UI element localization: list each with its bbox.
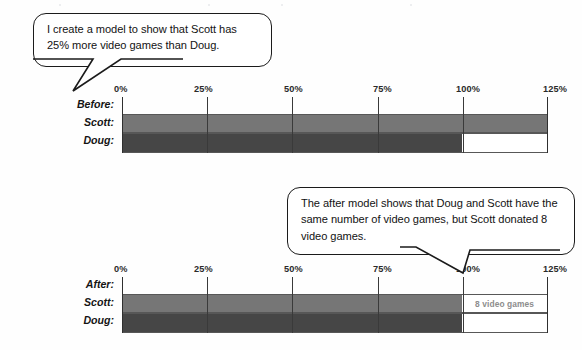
axis-tick-25: 25%	[194, 264, 213, 274]
gridline-100	[463, 277, 464, 333]
gridline-125	[547, 97, 548, 153]
chart-after-title: After:	[86, 278, 114, 290]
gridline-50	[292, 277, 293, 333]
gridline-125	[547, 277, 548, 333]
axis-tick-50: 50%	[284, 264, 303, 274]
chart-before-track-doug	[122, 133, 548, 153]
chart-after-track-doug	[122, 313, 548, 333]
axis-tick-0: 0%	[114, 264, 127, 274]
gridline-50	[292, 97, 293, 153]
chart-before-row-labels: Before: Scott: Doug:	[0, 97, 118, 153]
chart-after-track-scott: 8 video games	[122, 294, 548, 313]
worksheet-page: I create a model to show that Scott has …	[0, 0, 582, 350]
chart-before-label-doug: Doug:	[83, 134, 114, 146]
chart-after-plot: 8 video games	[122, 277, 548, 333]
chart-before-title: Before:	[77, 98, 114, 110]
chart-after-note-donated: 8 video games	[462, 295, 547, 312]
axis-tick-50: 50%	[284, 84, 303, 94]
chart-before-plot	[122, 97, 548, 153]
chart-after-label-doug: Doug:	[83, 314, 114, 326]
axis-tick-75: 75%	[373, 84, 392, 94]
chart-before-bar-scott	[123, 115, 547, 132]
axis-tick-75: 75%	[373, 264, 392, 274]
chart-after-row-labels: After: Scott: Doug:	[0, 277, 118, 333]
gridline-100	[463, 97, 464, 153]
callout-before-tail	[33, 58, 183, 94]
scan-noise	[0, 2, 582, 9]
gridline-0	[122, 97, 123, 153]
chart-before-label-scott: Scott:	[84, 116, 114, 128]
gridline-75	[378, 277, 379, 333]
callout-after-tail	[400, 246, 560, 284]
callout-after: The after model shows that Doug and Scot…	[287, 187, 575, 255]
axis-tick-125: 125%	[543, 84, 567, 94]
gridline-25	[207, 97, 208, 153]
gridline-25	[207, 277, 208, 333]
axis-tick-25: 25%	[194, 84, 213, 94]
gridline-75	[378, 97, 379, 153]
axis-tick-100: 100%	[456, 84, 480, 94]
callout-after-text: The after model shows that Doug and Scot…	[301, 195, 563, 244]
gridline-0	[122, 277, 123, 333]
chart-before-track-scott	[122, 114, 548, 133]
chart-after-label-scott: Scott:	[84, 296, 114, 308]
callout-before-text: I create a model to show that Scott has …	[47, 21, 260, 54]
